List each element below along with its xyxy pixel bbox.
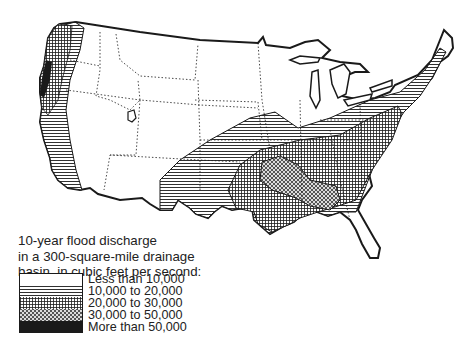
legend-swatches: [19, 273, 83, 333]
swatch-blank: [19, 273, 83, 285]
legend-item-label: More than 50,000: [88, 321, 187, 333]
legend-title-line: 10-year flood discharge: [18, 233, 201, 249]
legend-labels: Less than 10,000 10,000 to 20,000 20,000…: [88, 273, 187, 333]
swatch-crosshatch: [19, 297, 83, 309]
swatch-diagonal-hatch: [19, 309, 83, 321]
swatch-solid-black: [19, 321, 83, 333]
swatch-horizontal-lines: [19, 285, 83, 297]
legend-title-line: in a 300-square-mile drainage: [18, 249, 201, 265]
